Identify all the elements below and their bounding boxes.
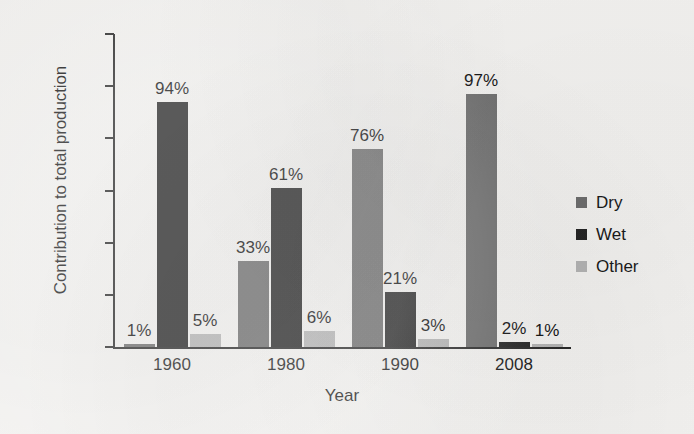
bar-group: 97%2%1% <box>457 34 571 347</box>
bar-dry-1960[interactable] <box>124 344 155 347</box>
y-axis-title: Contribution to total production <box>51 15 71 345</box>
x-axis-tick-label-1960: 1960 <box>112 355 232 375</box>
bar-dry-1990[interactable] <box>352 149 383 347</box>
bar-value-label: 6% <box>287 309 351 326</box>
y-axis-tick <box>105 137 114 139</box>
bar-value-label: 61% <box>254 166 318 183</box>
x-axis-line <box>113 347 571 349</box>
y-axis-tick <box>105 242 114 244</box>
x-axis-tick-label-1980: 1980 <box>226 355 346 375</box>
bar-value-label: 1% <box>515 322 579 339</box>
bar-other-1990[interactable] <box>418 339 449 347</box>
bar-wet-2008[interactable] <box>499 342 530 347</box>
bar-other-2008[interactable] <box>532 344 563 347</box>
legend-item-wet[interactable]: Wet <box>576 218 639 250</box>
bar-other-1980[interactable] <box>304 331 335 347</box>
x-axis-tick-label-2008: 2008 <box>454 355 574 375</box>
chart-legend: DryWetOther <box>576 186 639 282</box>
legend-swatch-icon <box>576 229 587 240</box>
x-axis-tick-label-1990: 1990 <box>340 355 460 375</box>
bar-value-label: 97% <box>449 72 513 89</box>
bar-value-label: 21% <box>368 270 432 287</box>
bar-value-label: 94% <box>140 80 204 97</box>
plot-area: 1%94%5%33%61%6%76%21%3%97%2%1% <box>115 34 571 347</box>
y-axis-tick <box>105 294 114 296</box>
legend-item-other[interactable]: Other <box>576 250 639 282</box>
legend-swatch-icon <box>576 197 587 208</box>
bar-value-label: 5% <box>173 312 237 329</box>
bar-other-1960[interactable] <box>190 334 221 347</box>
bar-group: 1%94%5% <box>115 34 229 347</box>
bar-wet-1960[interactable] <box>157 102 188 347</box>
legend-item-label: Other <box>596 258 639 275</box>
bar-group: 76%21%3% <box>343 34 457 347</box>
bar-value-label: 76% <box>335 127 399 144</box>
bar-dry-1980[interactable] <box>238 261 269 347</box>
bar-dry-2008[interactable] <box>466 94 497 347</box>
legend-item-dry[interactable]: Dry <box>576 186 639 218</box>
bar-chart: Contribution to total production 0%20%40… <box>0 0 694 434</box>
x-axis-title: Year <box>113 386 571 406</box>
legend-item-label: Dry <box>596 194 622 211</box>
y-axis-tick <box>105 190 114 192</box>
bar-group: 33%61%6% <box>229 34 343 347</box>
y-axis-tick <box>105 85 114 87</box>
legend-swatch-icon <box>576 261 587 272</box>
bar-value-label: 3% <box>401 317 465 334</box>
legend-item-label: Wet <box>596 226 626 243</box>
y-axis-tick <box>105 33 114 35</box>
